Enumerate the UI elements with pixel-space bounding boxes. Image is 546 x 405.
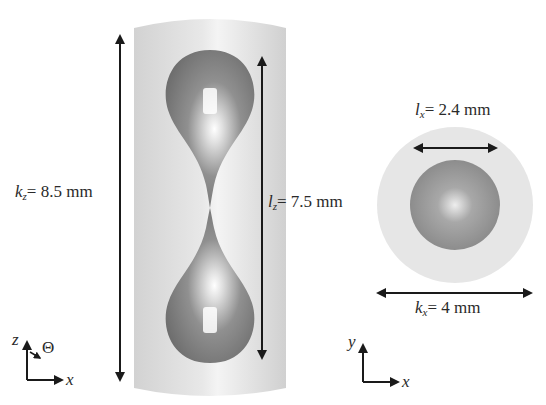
lx-label: lx= 2.4 mm xyxy=(415,100,490,120)
axis-label-y: y xyxy=(348,332,356,352)
axis-label-z: z xyxy=(12,330,19,350)
axis-label-x-side: x xyxy=(66,370,74,390)
lz-label: lz= 7.5 mm xyxy=(268,192,343,212)
kz-label: kz= 8.5 mm xyxy=(15,182,93,202)
axis-label-x-top: x xyxy=(402,372,410,392)
axes-xy xyxy=(363,345,398,382)
cylinder-top-view xyxy=(377,127,533,283)
kx-label: kx= 4 mm xyxy=(415,298,480,318)
axis-label-theta: Θ xyxy=(42,338,54,358)
